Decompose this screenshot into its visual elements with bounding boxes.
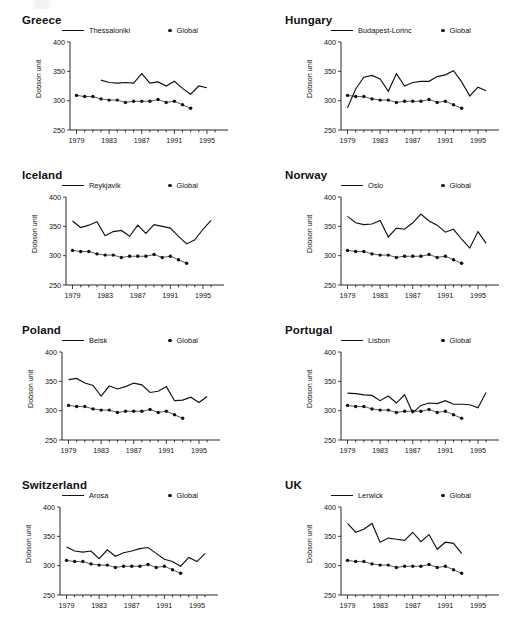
data-point-marker	[403, 100, 406, 103]
legend-item-global[interactable]: Global	[441, 336, 471, 345]
legend-item-station[interactable]: Thessaloniki	[62, 26, 130, 35]
x-tick-label: 1991	[437, 291, 453, 300]
x-tick-label: 1983	[372, 601, 388, 610]
panel-title: Switzerland	[22, 479, 87, 491]
legend-item-station[interactable]: Reykjavik	[62, 181, 121, 190]
data-point-marker	[95, 252, 98, 255]
legend-item-global[interactable]: Global	[168, 336, 198, 345]
y-tick-label: 300	[324, 561, 336, 570]
legend-item-station[interactable]: Arosa	[62, 491, 108, 500]
legend-item-global[interactable]: Global	[168, 491, 198, 500]
data-point-marker	[99, 97, 102, 100]
x-tick-label: 1995	[195, 291, 211, 300]
data-point-marker	[130, 565, 133, 568]
x-tick-label: 1991	[437, 446, 453, 455]
x-tick-label: 1995	[199, 136, 215, 145]
legend-label-global: Global	[450, 491, 471, 500]
data-point-marker	[370, 252, 373, 255]
data-point-marker	[436, 101, 439, 104]
data-point-marker	[452, 413, 455, 416]
data-point-marker	[378, 253, 381, 256]
legend-line-swatch-icon	[331, 495, 353, 496]
data-point-marker	[378, 408, 381, 411]
panel-title: Greece	[22, 14, 62, 26]
y-tick-label: 400	[324, 193, 336, 202]
x-tick-label: 1979	[59, 601, 75, 610]
data-point-marker	[120, 256, 123, 259]
x-tick-label: 1987	[134, 136, 150, 145]
data-point-marker	[185, 262, 188, 265]
data-point-marker	[354, 405, 357, 408]
legend-item-global[interactable]: Global	[441, 181, 471, 190]
plot-area: 25030035040019791983198719911995	[341, 42, 505, 148]
panel-title: Poland	[22, 324, 61, 336]
data-point-marker	[112, 253, 115, 256]
data-point-marker	[81, 560, 84, 563]
plot-area: 25030035040019791983198719911995	[341, 352, 505, 458]
data-point-marker	[189, 107, 192, 110]
chart-panel: SwitzerlandArosaGlobalDobson unit2503003…	[0, 471, 263, 620]
legend-item-station[interactable]: Budapest-Lorinc	[331, 26, 412, 35]
legend-item-global[interactable]: Global	[441, 26, 471, 35]
panel-title: Hungary	[285, 14, 332, 26]
data-point-marker	[138, 565, 141, 568]
legend-line-swatch-icon	[341, 340, 363, 341]
data-point-marker	[65, 559, 68, 562]
data-point-marker	[354, 250, 357, 253]
data-point-marker	[106, 563, 109, 566]
legend-label-global: Global	[450, 181, 471, 190]
y-tick-label: 350	[324, 222, 336, 231]
data-point-marker	[83, 405, 86, 408]
y-tick-label: 400	[324, 38, 336, 47]
data-point-marker	[436, 566, 439, 569]
data-point-marker	[444, 565, 447, 568]
y-tick-label: 400	[324, 348, 336, 357]
legend-item-station[interactable]: Belsk	[62, 336, 107, 345]
axis-lines	[341, 197, 499, 285]
y-tick-label: 350	[43, 532, 55, 541]
legend-item-global[interactable]: Global	[168, 26, 198, 35]
legend-item-station[interactable]: Lisbon	[341, 336, 390, 345]
y-axis-label: Dobson unit	[24, 525, 33, 563]
legend-item-global[interactable]: Global	[168, 181, 198, 190]
data-point-marker	[378, 98, 381, 101]
x-tick-label: 1995	[470, 601, 486, 610]
x-tick-label: 1987	[405, 291, 421, 300]
x-tick-label: 1979	[69, 136, 85, 145]
data-point-marker	[436, 256, 439, 259]
data-point-marker	[91, 407, 94, 410]
y-tick-label: 250	[324, 126, 336, 135]
legend-item-station[interactable]: Oslo	[341, 181, 383, 190]
data-point-marker	[107, 98, 110, 101]
data-point-marker	[114, 566, 117, 569]
x-tick-label: 1979	[340, 446, 356, 455]
data-point-marker	[148, 100, 151, 103]
x-tick-label: 1995	[189, 601, 205, 610]
x-tick-label: 1983	[93, 446, 109, 455]
data-point-marker	[346, 559, 349, 562]
data-point-marker	[411, 255, 414, 258]
y-tick-label: 250	[43, 591, 55, 600]
x-tick-label: 1991	[166, 136, 182, 145]
data-point-marker	[411, 100, 414, 103]
x-tick-label: 1987	[405, 446, 421, 455]
data-point-marker	[403, 410, 406, 413]
y-tick-label: 350	[324, 532, 336, 541]
data-point-marker	[140, 410, 143, 413]
data-point-marker	[370, 562, 373, 565]
data-point-marker	[370, 97, 373, 100]
data-point-marker	[83, 95, 86, 98]
x-tick-label: 1983	[372, 446, 388, 455]
y-tick-label: 300	[324, 406, 336, 415]
data-point-marker	[108, 408, 111, 411]
x-tick-label: 1983	[91, 601, 107, 610]
x-tick-label: 1983	[97, 291, 113, 300]
legend-item-station[interactable]: Lerwick	[331, 491, 383, 500]
data-point-marker	[122, 565, 125, 568]
panel-title: Portugal	[285, 324, 332, 336]
legend-item-global[interactable]: Global	[441, 491, 471, 500]
data-point-marker	[132, 410, 135, 413]
chart-grid: GreeceThessalonikiGlobalDobson unit25030…	[0, 6, 525, 620]
chart-panel: HungaryBudapest-LorincGlobalDobson unit2…	[263, 6, 525, 161]
legend-line-swatch-icon	[62, 340, 84, 341]
